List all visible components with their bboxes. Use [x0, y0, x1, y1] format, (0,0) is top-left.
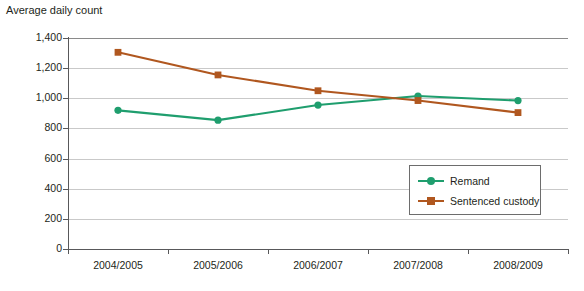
x-axis-tick-label: 2004/2005 — [68, 259, 168, 271]
legend-swatch-remand — [418, 176, 444, 186]
x-axis-tick-mark — [68, 249, 69, 254]
gridline — [68, 38, 568, 39]
y-axis-tick-label: 800 — [0, 122, 62, 133]
x-axis-tick-mark — [468, 249, 469, 254]
y-axis-tick-label: 1,400 — [0, 32, 62, 43]
data-point — [214, 117, 221, 124]
x-axis-tick-label: 2008/2009 — [468, 259, 568, 271]
x-axis-tick-mark — [268, 249, 269, 254]
legend-item-remand[interactable]: Remand — [418, 174, 490, 188]
legend-item-sentenced-custody[interactable]: Sentenced custody — [418, 194, 539, 208]
series-line-sentenced-custody — [118, 52, 518, 112]
x-axis-tick-label: 2006/2007 — [268, 259, 368, 271]
gridline — [68, 219, 568, 220]
gridline — [68, 159, 568, 160]
y-axis-tick-label: 600 — [0, 153, 62, 164]
data-point — [315, 87, 322, 94]
x-axis-tick-label: 2007/2008 — [368, 259, 468, 271]
x-axis-tick-mark — [568, 249, 569, 254]
x-axis-line — [68, 249, 569, 250]
gridline — [68, 68, 568, 69]
data-point — [114, 107, 121, 114]
chart-container: Average daily count 02004006008001,0001,… — [0, 0, 584, 291]
x-axis-tick-mark — [168, 249, 169, 254]
y-axis-tick-label: 1,200 — [0, 62, 62, 73]
data-point — [215, 72, 222, 79]
x-axis-tick-label: 2005/2006 — [168, 259, 268, 271]
y-axis-tick-label: 1,000 — [0, 92, 62, 103]
data-point — [515, 109, 522, 116]
x-axis-tick-mark — [368, 249, 369, 254]
y-axis-tick-label: 0 — [0, 243, 62, 254]
data-point — [314, 101, 321, 108]
data-point — [115, 49, 122, 56]
legend-swatch-sentenced-custody — [418, 196, 444, 206]
y-axis-tick-label: 200 — [0, 213, 62, 224]
series-layer — [0, 0, 584, 291]
gridline — [68, 98, 568, 99]
chart-legend: Remand Sentenced custody — [409, 165, 541, 215]
series-line-remand — [118, 96, 518, 120]
y-axis-line — [68, 37, 69, 250]
legend-label-remand: Remand — [450, 175, 490, 187]
gridline — [68, 128, 568, 129]
y-axis-tick-label: 400 — [0, 183, 62, 194]
y-axis-title: Average daily count — [6, 4, 102, 17]
legend-label-sentenced-custody: Sentenced custody — [450, 195, 539, 207]
